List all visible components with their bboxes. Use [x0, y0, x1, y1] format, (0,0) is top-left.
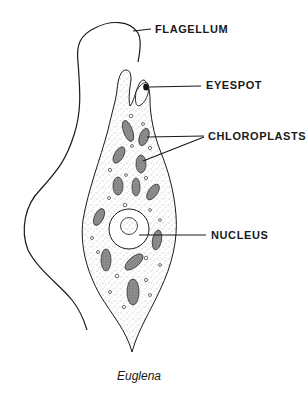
label-chloroplasts: CHLOROPLASTS — [208, 131, 306, 142]
label-eyespot: EYESPOT — [206, 80, 262, 91]
euglena-diagram — [0, 0, 308, 400]
eyespot — [143, 84, 149, 91]
label-nucleus: NUCLEUS — [211, 230, 268, 241]
label-flagellum: FLAGELLUM — [155, 24, 228, 35]
nucleus — [109, 209, 149, 249]
diagram-caption: Euglena — [117, 370, 161, 382]
eyespot-leader — [149, 86, 201, 87]
